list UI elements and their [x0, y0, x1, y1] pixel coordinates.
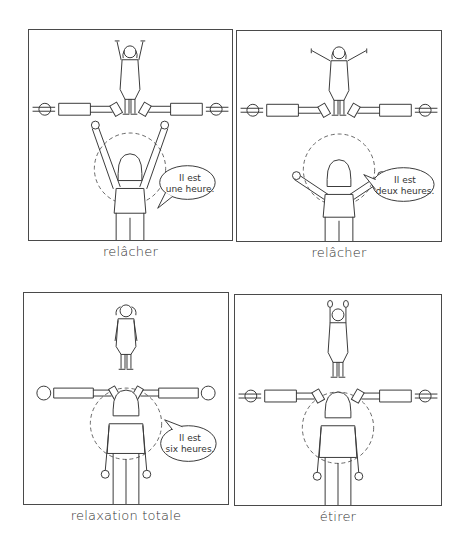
speech-line-2: six heures. [163, 444, 217, 455]
left-lying-figure-icon [33, 102, 123, 116]
left-lying-figure-icon [239, 389, 325, 403]
right-lying-figure-icon [138, 102, 228, 116]
top-child-figure-icon [115, 41, 145, 114]
speech-line-1: Il est [374, 175, 436, 186]
panel-etirer [234, 294, 442, 506]
speech-line-1: Il est [163, 433, 217, 444]
speech-bubble-text: Il est six heures. [163, 433, 217, 455]
panel-deux-heures: Il est deux heures. [236, 30, 442, 242]
speech-bubble-text: Il est une heure. [162, 173, 218, 195]
panel-six-heures: Il est six heures. [23, 292, 229, 505]
right-lying-figure-icon [131, 386, 215, 400]
top-child-figure-icon [328, 300, 349, 377]
speech-line-1: Il est [162, 173, 218, 184]
main-figure-back-view-icon [91, 121, 168, 240]
main-figure-back-view-icon [101, 390, 151, 504]
right-lying-figure-icon [351, 389, 437, 403]
exercise-illustration [235, 295, 441, 505]
exercise-illustration [29, 30, 232, 240]
right-lying-figure-icon [347, 103, 437, 117]
speech-bubble-text: Il est deux heures. [374, 175, 436, 197]
panel-caption: étirer [234, 509, 442, 524]
speech-line-2: une heure. [162, 184, 218, 195]
panel-une-heure: Il est une heure. [28, 29, 233, 241]
top-child-figure-icon [115, 305, 137, 369]
speech-line-2: deux heures. [374, 186, 436, 197]
panel-caption: relaxation totale [23, 508, 229, 523]
main-figure-back-view-icon [292, 160, 385, 241]
panel-caption: relâcher [28, 244, 233, 259]
exercise-illustration [237, 31, 441, 241]
top-child-figure-icon [311, 47, 366, 115]
left-lying-figure-icon [241, 103, 331, 117]
panel-caption: relâcher [236, 245, 442, 260]
main-figure-back-view-icon [313, 392, 363, 505]
exercise-illustration [24, 293, 228, 504]
